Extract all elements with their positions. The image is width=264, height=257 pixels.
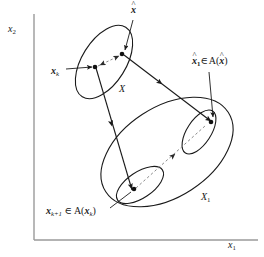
ellipse-set-X1 bbox=[81, 75, 252, 230]
label-xhat1-relation: ∈ bbox=[200, 55, 207, 66]
label-xk1-map: A bbox=[74, 205, 81, 216]
label-xk1-arg-sub: k bbox=[89, 210, 92, 217]
hat-accent-icon-arg: ^ bbox=[220, 51, 224, 60]
x-axis-label: x1 bbox=[228, 240, 236, 252]
label-x-k: xk bbox=[51, 66, 59, 78]
point-x-k-plus-1 bbox=[132, 187, 137, 192]
label-x-k-sub: k bbox=[56, 70, 59, 77]
label-x-k-plus-1-in-A-x-k: xk+1 ∈ A(xk) bbox=[46, 206, 96, 218]
diagram-svg bbox=[0, 0, 264, 257]
y-axis-label-sub: 2 bbox=[12, 28, 15, 35]
hat-accent-icon-lead: ^ bbox=[193, 51, 197, 60]
label-set-X-text: X bbox=[119, 83, 125, 94]
label-set-X1-sub: 1 bbox=[207, 196, 210, 203]
label-x-hat: ^x bbox=[131, 5, 136, 15]
leader-xk bbox=[66, 67, 92, 69]
label-set-X1: X1 bbox=[201, 192, 211, 204]
point-x-k bbox=[93, 65, 98, 70]
solid-xk-to-xk1-arrow bbox=[106, 104, 112, 126]
label-xhat1-map: A bbox=[209, 55, 216, 66]
label-set-X: X bbox=[119, 84, 125, 94]
label-xk1-relation: ∈ bbox=[65, 205, 72, 216]
point-x-hat-1 bbox=[209, 120, 214, 125]
dashed-midpoint-arrow bbox=[160, 154, 175, 167]
figure-canvas: x2 x1 ^x xk X ^x1∈ A(^x) X1 xk+1 ∈ A(xk) bbox=[0, 0, 264, 257]
y-axis-label: x2 bbox=[8, 24, 16, 36]
label-xk1-lead-sub: k+1 bbox=[51, 210, 62, 217]
dashed-xk-to-xhat bbox=[98, 56, 119, 66]
x-axis-label-sub: 1 bbox=[232, 244, 235, 251]
dashed-xk1-to-xhat1 bbox=[136, 126, 205, 188]
label-x-hat-1-in-A-x-hat: ^x1∈ A(^x) bbox=[192, 56, 228, 68]
hat-accent-icon: ^ bbox=[132, 0, 136, 8]
point-x-hat bbox=[120, 52, 125, 57]
